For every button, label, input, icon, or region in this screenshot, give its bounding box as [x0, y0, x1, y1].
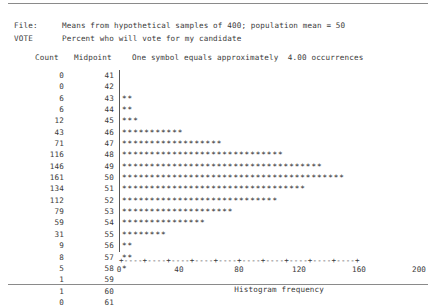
row-midpoint: 42 [100, 81, 114, 92]
row-bar-symbols: *********** [122, 127, 183, 138]
row-bar-symbols: ** [122, 240, 133, 251]
histogram-row: 042 [0, 81, 436, 92]
row-midpoint: 43 [100, 93, 114, 104]
histogram-row: 644** [0, 104, 436, 115]
row-bar-symbols: *** [122, 115, 139, 126]
histogram-row: 16150***********************************… [0, 172, 436, 183]
row-midpoint: 51 [100, 183, 114, 194]
x-axis: +----+----+----+----+----+----+----+----… [0, 252, 436, 286]
column-header-midpoint: Midpoint [74, 53, 112, 62]
x-axis-title: Histogram frequency [119, 276, 411, 303]
histogram-row: 7147****************** [0, 138, 436, 149]
row-count: 6 [59, 104, 64, 115]
row-midpoint: 49 [100, 161, 114, 172]
row-bar-symbols: ******** [122, 229, 167, 240]
row-bar-symbols: ** [122, 93, 133, 104]
row-bar-symbols: ****************** [122, 138, 222, 149]
histogram-row: 11252**************************** [0, 195, 436, 206]
row-count: 112 [50, 195, 64, 206]
histogram-row: 041 [0, 70, 436, 81]
x-tick-label: 0 [117, 265, 122, 274]
row-count: 9 [59, 240, 64, 251]
row-bar-symbols: **************************************** [122, 172, 345, 183]
row-count: 1 [59, 286, 64, 297]
row-count: 79 [55, 206, 64, 217]
row-count: 0 [59, 70, 64, 81]
row-count: 161 [50, 172, 64, 183]
row-midpoint: 53 [100, 206, 114, 217]
row-midpoint: 60 [100, 286, 114, 297]
row-count: 0 [59, 81, 64, 92]
histogram-row: 14649***********************************… [0, 161, 436, 172]
x-axis-tick-labels: 04080120160200 [119, 265, 419, 275]
row-midpoint: 61 [100, 297, 114, 308]
symbol-scale-note: One symbol equals approximately 4.00 occ… [132, 53, 363, 62]
row-bar-symbols: ************************************ [122, 161, 323, 172]
histogram-row: 7953******************** [0, 206, 436, 217]
variable-description: Percent who will vote for my candidate [62, 34, 241, 43]
histogram-row: 13451********************************* [0, 183, 436, 194]
row-midpoint: 56 [100, 240, 114, 251]
histogram-row: 4346*********** [0, 127, 436, 138]
x-tick-label: 160 [352, 265, 366, 274]
row-count: 146 [50, 161, 64, 172]
row-midpoint: 55 [100, 229, 114, 240]
row-midpoint: 50 [100, 172, 114, 183]
row-midpoint: 41 [100, 70, 114, 81]
row-count: 6 [59, 93, 64, 104]
histogram-rows: 041042643**644**1245***4346***********71… [0, 70, 436, 252]
row-count: 31 [55, 229, 64, 240]
x-tick-label: 200 [412, 265, 426, 274]
row-bar-symbols: ** [122, 104, 133, 115]
x-axis-line: +----+----+----+----+----+----+----+----… [119, 256, 360, 265]
file-label: File: [14, 21, 38, 30]
row-midpoint: 44 [100, 104, 114, 115]
row-bar-symbols: ***************************** [122, 149, 284, 160]
histogram-row: 11648***************************** [0, 149, 436, 160]
histogram-row: 1245*** [0, 115, 436, 126]
column-header-count: Count [35, 53, 59, 62]
histogram-row: 956** [0, 240, 436, 251]
row-midpoint: 52 [100, 195, 114, 206]
x-tick-label: 120 [292, 265, 306, 274]
row-bar-symbols: ********************************* [122, 183, 306, 194]
row-bar-symbols: **************************** [122, 195, 278, 206]
row-count: 0 [59, 297, 64, 308]
file-description: Means from hypothetical samples of 400; … [62, 21, 345, 30]
row-count: 71 [55, 138, 64, 149]
row-midpoint: 46 [100, 127, 114, 138]
histogram-row: 643** [0, 93, 436, 104]
row-count: 12 [55, 115, 64, 126]
row-count: 116 [50, 149, 64, 160]
row-midpoint: 54 [100, 217, 114, 228]
x-tick-label: 80 [234, 265, 243, 274]
row-bar-symbols: ******************** [122, 206, 233, 217]
row-count: 134 [50, 183, 64, 194]
row-midpoint: 48 [100, 149, 114, 160]
row-midpoint: 47 [100, 138, 114, 149]
top-divider-rule [8, 3, 428, 4]
row-midpoint: 45 [100, 115, 114, 126]
bottom-divider-rule [8, 284, 428, 285]
histogram-row: 3155******** [0, 229, 436, 240]
row-count: 59 [55, 217, 64, 228]
x-tick-label: 40 [174, 265, 183, 274]
variable-label: VOTE [14, 34, 33, 43]
row-bar-symbols: *************** [122, 217, 206, 228]
row-count: 43 [55, 127, 64, 138]
x-axis-title-text: Histogram frequency [234, 285, 324, 294]
histogram-row: 5954*************** [0, 217, 436, 228]
